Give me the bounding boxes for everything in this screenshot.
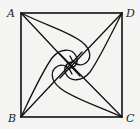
blade-c	[52, 54, 122, 117]
diagram-canvas: A D B C	[0, 0, 140, 129]
blade-a	[21, 13, 90, 76]
blade-c-straight-edge	[60, 54, 122, 117]
label-a: A	[6, 7, 15, 20]
label-d: D	[125, 7, 135, 20]
blade-b-curved-edge	[21, 50, 77, 117]
label-b: B	[7, 112, 16, 125]
square-diagram: A D B C	[0, 0, 140, 129]
label-c: C	[126, 112, 135, 125]
blade-b-straight-edge	[21, 52, 82, 117]
